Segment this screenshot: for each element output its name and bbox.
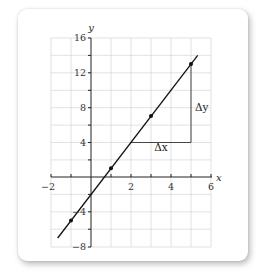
y-tick-12: 12 — [74, 67, 86, 78]
x-tick-6: 6 — [208, 181, 214, 192]
y-tick-8: 8 — [80, 102, 86, 113]
x-tick-neg2: −2 — [41, 181, 55, 192]
x-axis-label: x — [216, 172, 222, 183]
delta-y-label: Δy — [195, 101, 209, 113]
y-tick-neg4: −4 — [72, 206, 86, 217]
y-tick-16: 16 — [74, 32, 86, 43]
y-tick-neg8: −8 — [72, 241, 86, 252]
x-tick-4: 4 — [168, 181, 174, 192]
x-tick-2: 2 — [128, 181, 134, 192]
delta-x-label: Δx — [154, 141, 168, 153]
x-tick-labels: −2 2 4 6 — [41, 181, 214, 192]
point-1-1 — [109, 166, 113, 170]
point-neg1-neg5 — [69, 219, 73, 223]
chart-plot: −2 2 4 6 16 12 8 4 −4 −8 y x Δx Δy — [0, 0, 267, 278]
point-5-13 — [189, 62, 193, 66]
y-tick-labels: 16 12 8 4 −4 −8 — [72, 32, 86, 252]
point-3-7 — [149, 114, 153, 118]
y-axis-label: y — [87, 22, 94, 33]
y-tick-4: 4 — [80, 137, 86, 148]
